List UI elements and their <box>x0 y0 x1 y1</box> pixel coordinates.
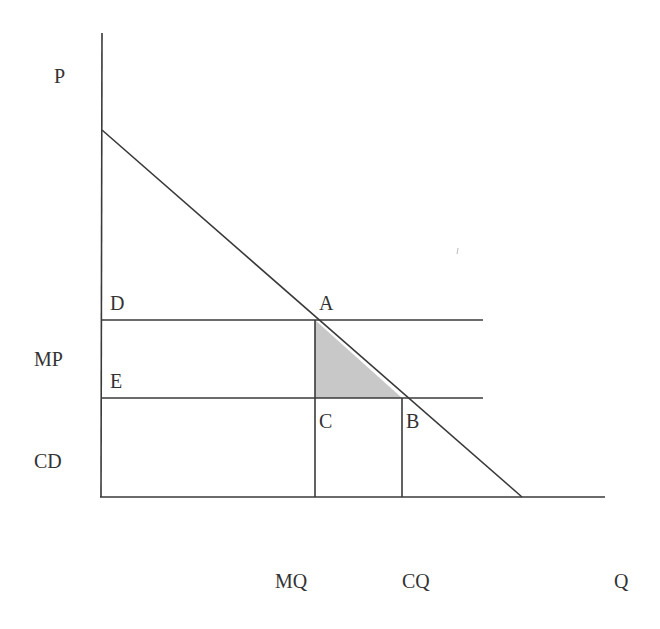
stray-mark <box>457 248 458 254</box>
point-D-label: D <box>110 292 124 314</box>
competitive-quantity-label: CQ <box>402 570 430 592</box>
point-B-label: B <box>406 410 419 432</box>
point-A-label: A <box>319 292 334 314</box>
deadweight-loss-triangle <box>315 320 402 398</box>
y-axis <box>101 33 102 497</box>
monopoly-quantity-label: MQ <box>275 570 308 592</box>
y-axis-label: P <box>54 65 65 87</box>
monopoly-price-label: MP <box>34 348 63 370</box>
economics-diagram: P Q MP CD MQ CQ D E A C B <box>0 0 660 629</box>
point-E-label: E <box>110 370 122 392</box>
x-axis-label: Q <box>614 570 629 592</box>
point-C-label: C <box>319 410 332 432</box>
competitive-price-label: CD <box>34 450 62 472</box>
demand-line <box>102 130 522 497</box>
